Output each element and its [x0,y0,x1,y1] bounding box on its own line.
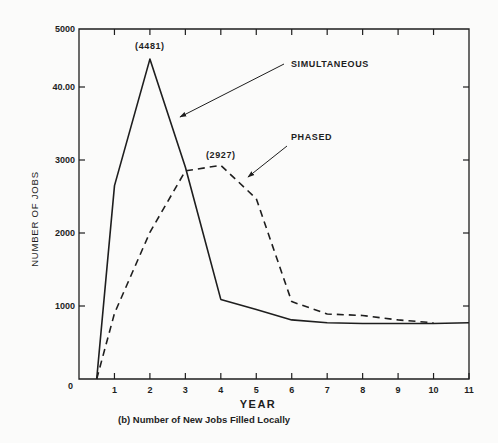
x-tick-label: 9 [396,385,401,395]
annotation-simultaneous-peak: (4481) [135,41,165,51]
x-tick-label: 10 [429,385,439,395]
arrow-phased [248,146,287,177]
legend-label-simultaneous: SIMULTANEOUS [291,59,369,69]
y-tick-label: 0 [68,381,73,391]
series-line-simultaneous [97,59,469,379]
x-tick-label: 7 [325,385,330,395]
y-tick-label: 3000 [55,155,75,165]
x-tick-label: 1 [112,385,117,395]
plot-frame [79,29,469,379]
series-lines [97,59,469,379]
y-axis-title: NUMBER OF JOBS [29,171,40,267]
y-tick-label: 2000 [55,228,75,238]
y-tick-label: 5000 [55,24,75,34]
legend-label-phased: PHASED [291,132,332,142]
x-tick-label: 11 [464,385,474,395]
y-axis-ticks: 010002000300040.005000 [52,24,469,391]
x-tick-label: 6 [289,385,294,395]
x-axis-ticks: 1234567891011 [112,29,474,395]
chart: 1234567891011 010002000300040.005000 (44… [0,0,498,443]
annotation-phased-peak: (2927) [206,150,236,160]
x-tick-label: 2 [147,385,152,395]
figure-caption: (b) Number of New Jobs Filled Locally [118,414,291,425]
x-tick-label: 5 [254,385,259,395]
arrow-simultaneous [180,64,284,117]
y-tick-label: 1000 [55,301,75,311]
axes-box [79,29,469,379]
y-tick-label: 40.00 [52,82,75,92]
x-tick-label: 3 [183,385,188,395]
series-line-phased [97,165,434,379]
x-axis-title: YEAR [240,398,277,410]
x-tick-label: 8 [360,385,365,395]
x-tick-label: 4 [218,385,223,395]
